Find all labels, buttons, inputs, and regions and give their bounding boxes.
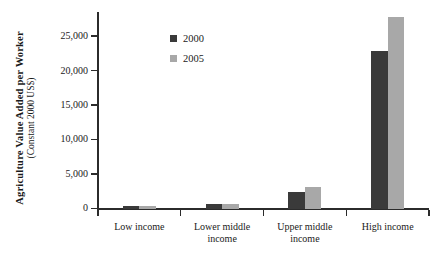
legend-item-2000: 2000 <box>170 33 204 44</box>
legend-item-2005: 2005 <box>170 53 204 64</box>
plot-area <box>98 12 429 209</box>
y-axis-tick <box>91 208 97 209</box>
x-axis-category-label: High income <box>346 221 429 233</box>
x-axis-category-label: Lower middle income <box>181 221 264 245</box>
bar-2000-1 <box>123 206 140 209</box>
y-axis-tick <box>91 139 97 140</box>
x-axis-category-label: Upper middle income <box>264 221 347 245</box>
bar-2005-4 <box>388 17 405 209</box>
chart-figure: Agriculture Value Added per Worker (Cons… <box>0 0 439 266</box>
y-axis-tick <box>91 104 97 105</box>
x-axis-tick <box>180 210 181 216</box>
y-axis-tick-label: 10,000 <box>28 134 88 144</box>
bar-2005-3 <box>305 187 322 209</box>
y-axis-tick <box>91 70 97 71</box>
bar-2000-2 <box>206 204 223 209</box>
legend-label: 2005 <box>183 53 204 64</box>
y-axis-tick <box>91 173 97 174</box>
bar-2005-1 <box>139 206 156 209</box>
legend-label: 2000 <box>183 33 204 44</box>
legend-swatch-icon <box>170 35 177 42</box>
y-axis-tick-label: 0 <box>28 203 88 213</box>
y-axis-title-main: Agriculture Value Added per Worker <box>14 31 26 205</box>
x-axis-tick <box>263 210 264 216</box>
bar-2005-2 <box>222 204 239 210</box>
x-axis-tick <box>428 210 429 216</box>
y-axis-tick-label: 25,000 <box>28 31 88 41</box>
chart-legend: 20002005 <box>170 33 204 64</box>
legend-swatch-icon <box>170 55 177 62</box>
x-axis-tick <box>346 210 347 216</box>
y-axis-tick-label: 20,000 <box>28 66 88 76</box>
y-axis-tick <box>91 35 97 36</box>
y-axis-tick-label: 15,000 <box>28 100 88 110</box>
y-axis-tick-label: 5,000 <box>28 169 88 179</box>
x-axis-tick <box>97 210 98 216</box>
bar-2000-4 <box>371 51 388 209</box>
x-axis-category-label: Low income <box>98 221 181 233</box>
y-axis-title-sub: (Constant 2000 US$) <box>26 78 37 159</box>
bar-2000-3 <box>288 192 305 209</box>
